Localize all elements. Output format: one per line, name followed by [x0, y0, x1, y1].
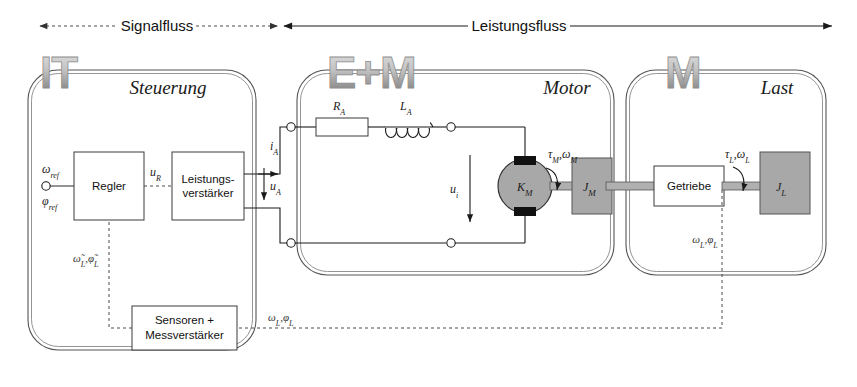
circuit-terminal-top — [287, 123, 295, 131]
block-leistungsverstaerker-label-2: verstärker — [182, 187, 233, 199]
u-a-label: uA — [270, 179, 281, 197]
signal-u-r: uR — [144, 165, 172, 186]
domain-label-steuerung: Steuerung — [129, 77, 206, 98]
block-leistungsverstaerker-label-1: Leistungs- — [181, 173, 234, 185]
omega-phi-l-feedback-label: ωL,φL — [268, 311, 294, 328]
phi-ref-label: φref — [42, 194, 59, 212]
block-sensoren-label-1: Sensoren + — [155, 314, 214, 326]
omega-phi-l-load-label: ωL,φL — [692, 233, 718, 250]
resistor-ra-body — [316, 118, 368, 136]
motor-circuit: RA LA ui — [287, 99, 552, 247]
inductor-la-body — [385, 120, 433, 138]
coupling-shaft — [606, 182, 660, 190]
block-sensoren[interactable]: Sensoren + Messverstärker — [132, 306, 237, 350]
omega-ref-label: ωref — [42, 162, 61, 180]
signalfluss-label: Signalfluss — [121, 17, 194, 34]
motor-body: KM — [498, 156, 552, 216]
logo-em-text: E+M — [327, 48, 416, 97]
circuit-terminal-mid-bottom — [447, 239, 455, 247]
tau-omega-m-label: τM,ωM — [548, 147, 578, 165]
power-output-wires: iA uA — [244, 127, 287, 243]
reference-input-terminal: ωref φref — [42, 162, 74, 212]
block-getriebe-label: Getriebe — [667, 180, 711, 192]
flow-arrow-leistungsfluss: Leistungsfluss — [284, 17, 832, 34]
circuit-terminal-bottom — [287, 239, 295, 247]
system-diagram-canvas: Signalfluss Leistungsfluss IT E+M M Steu… — [0, 0, 857, 387]
u-i-label: ui — [450, 182, 458, 200]
tau-omega-l-label: τL,ωL — [725, 147, 750, 165]
block-getriebe[interactable]: Getriebe — [654, 166, 724, 206]
block-leistungsverstaerker[interactable]: Leistungs- verstärker — [172, 152, 244, 220]
domain-label-last: Last — [760, 77, 794, 98]
diagram-root: Signalfluss Leistungsfluss IT E+M M Steu… — [0, 0, 857, 387]
logo-it-text: IT — [40, 48, 78, 97]
flow-arrow-signalfluss: Signalfluss — [40, 17, 278, 34]
block-regler[interactable]: Regler — [74, 152, 144, 220]
load-inertia-jl: JL — [760, 152, 810, 214]
leistungsfluss-label: Leistungsfluss — [471, 17, 566, 34]
resistor-ra-label: RA — [332, 99, 345, 117]
domain-label-motor: Motor — [542, 77, 591, 98]
feedback-to-regler: ω̃L,φ̃L — [73, 220, 132, 328]
block-regler-label: Regler — [92, 180, 126, 192]
logo-m: M — [665, 48, 723, 97]
omega-phi-hat-label: ω̃L,φ̃L — [73, 252, 99, 269]
logo-em: E+M — [327, 48, 487, 97]
u-r-label: uR — [150, 165, 161, 183]
sensor-feedback-path: ωL,φL ωL,φL — [237, 190, 722, 328]
circuit-terminal-mid-top — [447, 123, 455, 131]
block-sensoren-label-2: Messverstärker — [145, 329, 224, 341]
logo-m-text: M — [665, 48, 701, 97]
i-a-label: iA — [270, 139, 278, 157]
inductor-la-label: LA — [399, 99, 412, 117]
